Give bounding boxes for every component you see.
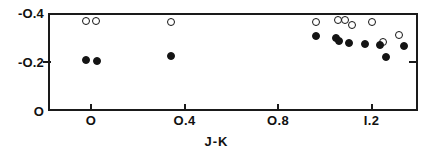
x-tick-mark (277, 104, 279, 111)
y-tick-label: O (0, 104, 44, 119)
data-point-open (341, 16, 349, 24)
x-tick-mark (371, 104, 373, 111)
x-tick-label: O.4 (174, 113, 196, 128)
data-point-filled (400, 42, 408, 50)
data-point-filled (82, 56, 90, 64)
y-tick-label: -O.2 (0, 55, 44, 70)
x-axis-title: J-K (0, 134, 433, 149)
data-point-open (92, 17, 100, 25)
data-point-open (395, 31, 403, 39)
data-point-filled (167, 52, 175, 60)
y-tick-label: -O.4 (0, 6, 44, 21)
x-tick-mark (90, 104, 92, 111)
data-point-open (312, 18, 320, 26)
data-point-filled (382, 53, 390, 61)
y-tick-mark-right (409, 61, 417, 63)
data-point-open (348, 21, 356, 29)
data-point-filled (312, 32, 320, 40)
x-tick-label: I.2 (364, 113, 379, 128)
scatter-plot-figure: OO.4O.8I.2 -O.4-O.2O J-K (0, 0, 433, 160)
data-point-filled (93, 57, 101, 65)
data-point-filled (361, 40, 369, 48)
x-tick-label: O (86, 113, 96, 128)
data-point-filled (376, 41, 384, 49)
data-point-filled (335, 37, 343, 45)
data-point-open (82, 17, 90, 25)
data-point-open (368, 18, 376, 26)
data-point-filled (345, 39, 353, 47)
y-tick-mark-left (43, 61, 51, 63)
data-point-open (167, 18, 175, 26)
x-tick-mark (184, 104, 186, 111)
x-tick-label: O.8 (267, 113, 289, 128)
plot-axes-frame (48, 13, 418, 111)
